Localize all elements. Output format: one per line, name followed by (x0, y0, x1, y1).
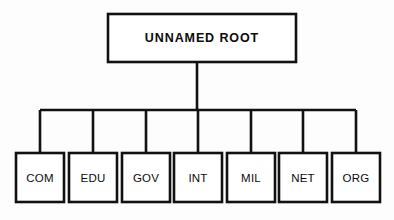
child-connectors (40, 110, 356, 153)
leaf-label-mil: MIL (241, 172, 261, 184)
tree-diagram-canvas: UNNAMED ROOT COM EDU GOV (0, 0, 394, 220)
leaf-label-org: ORG (343, 172, 370, 184)
leaf-node-com[interactable]: COM (16, 153, 64, 202)
leaf-node-org[interactable]: ORG (332, 153, 380, 202)
tree-diagram: UNNAMED ROOT COM EDU GOV (0, 0, 394, 220)
leaf-node-mil[interactable]: MIL (227, 153, 275, 202)
leaf-label-int: INT (188, 172, 207, 184)
leaf-label-net: NET (291, 172, 315, 184)
leaf-label-edu: EDU (81, 172, 106, 184)
leaf-label-com: COM (26, 172, 53, 184)
leaf-node-int[interactable]: INT (174, 153, 222, 202)
root-node[interactable]: UNNAMED ROOT (108, 14, 296, 62)
leaf-node-gov[interactable]: GOV (122, 153, 170, 202)
leaf-label-gov: GOV (133, 172, 159, 184)
root-node-label: UNNAMED ROOT (145, 31, 259, 45)
leaf-node-net[interactable]: NET (279, 153, 327, 202)
leaf-node-edu[interactable]: EDU (69, 153, 117, 202)
